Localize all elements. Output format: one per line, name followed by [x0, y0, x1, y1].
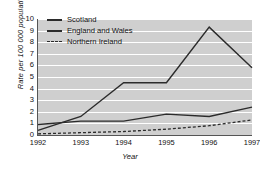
series-line — [38, 107, 252, 124]
legend-label: Northern Ireland — [67, 37, 122, 46]
x-tick-label: 1997 — [232, 138, 260, 147]
x-tick-label: 1996 — [189, 138, 229, 147]
y-tick-label: 6 — [4, 61, 34, 69]
y-tick-label: 10 — [4, 15, 34, 23]
y-tick-label: 9 — [4, 27, 34, 35]
legend-label: Scotland — [67, 15, 97, 24]
x-axis-line — [37, 135, 252, 136]
y-tick-label: 2 — [4, 108, 34, 116]
y-tick-label: 3 — [4, 96, 34, 104]
line-chart: Rate per 100 000 population 012345678910… — [0, 0, 260, 169]
y-tick-label: 5 — [4, 73, 34, 81]
y-tick-label: 8 — [4, 38, 34, 46]
y-axis-line — [37, 19, 38, 136]
x-axis-title: Year — [0, 152, 260, 161]
legend-label: England and Wales — [67, 26, 133, 35]
legend-swatch-solid-icon — [47, 25, 62, 36]
y-tick-label: 7 — [4, 50, 34, 58]
y-tick-label: 1 — [4, 119, 34, 127]
legend-swatch-dashed-icon — [47, 36, 62, 47]
legend: ScotlandEngland and WalesNorthern Irelan… — [47, 14, 133, 47]
y-tick-label: 4 — [4, 85, 34, 93]
legend-swatch-solid-icon — [47, 14, 62, 25]
x-tick-label: 1994 — [104, 138, 144, 147]
legend-item[interactable]: Scotland — [47, 14, 133, 25]
x-tick-label: 1992 — [18, 138, 58, 147]
legend-item[interactable]: Northern Ireland — [47, 36, 133, 47]
x-tick-label: 1995 — [146, 138, 186, 147]
legend-item[interactable]: England and Wales — [47, 25, 133, 36]
x-tick-label: 1993 — [61, 138, 101, 147]
